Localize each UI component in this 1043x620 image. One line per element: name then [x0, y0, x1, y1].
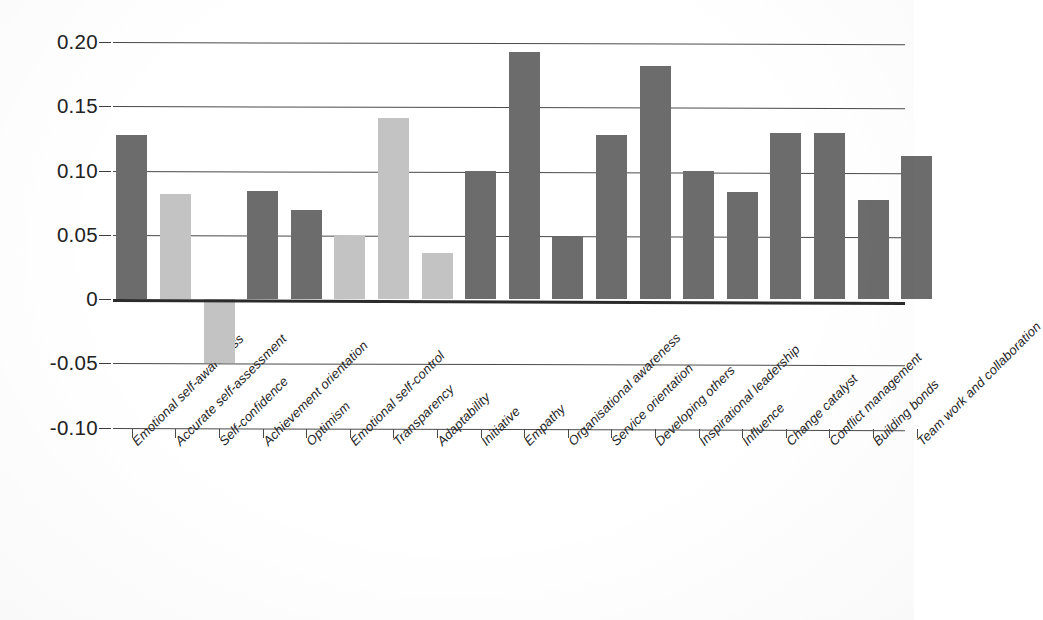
bar [770, 133, 801, 299]
bar [727, 192, 758, 299]
bar [901, 156, 932, 299]
bar [683, 171, 714, 300]
bar [378, 118, 409, 299]
bar [465, 171, 496, 300]
bar [552, 237, 583, 299]
bar [160, 194, 191, 299]
bar [596, 135, 627, 299]
bar [204, 299, 235, 363]
bar [640, 66, 671, 299]
bar [116, 135, 147, 299]
bar [422, 253, 453, 299]
bar [291, 210, 322, 299]
bar [858, 200, 889, 299]
bar [334, 236, 365, 299]
bar [814, 133, 845, 299]
bar [509, 52, 540, 299]
bar [247, 191, 278, 299]
